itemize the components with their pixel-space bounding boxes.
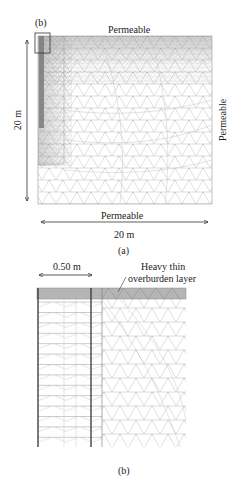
mesh-domain	[38, 36, 212, 204]
bottom-boundary-label: Permeable	[101, 211, 143, 221]
caption-a: (a)	[118, 246, 129, 256]
right-boundary-label: Permeable	[218, 99, 228, 141]
top-boundary-label: Permeable	[108, 25, 150, 35]
inset-label: (b)	[35, 18, 47, 28]
drain-column	[39, 36, 44, 128]
drain-width-label: 0.50 m	[53, 262, 81, 272]
height-dimension-label: 20 m	[13, 110, 23, 130]
annotation-leader	[118, 277, 126, 292]
width-dimension-label: 20 m	[114, 230, 134, 240]
mesh-figure-a	[0, 0, 242, 260]
annotation-line2: overburden layer	[128, 274, 196, 284]
annotation-line1: Heavy thin	[141, 262, 185, 272]
inset-mesh	[37, 288, 186, 447]
overburden-layer	[37, 288, 186, 299]
caption-b: (b)	[118, 466, 130, 476]
